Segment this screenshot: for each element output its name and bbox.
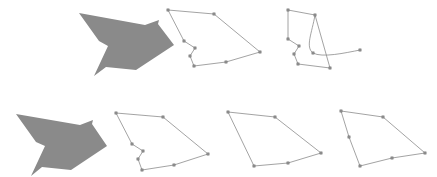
vertex-marker: [293, 53, 295, 55]
vertex-marker: [162, 116, 164, 118]
vertex-marker: [213, 13, 215, 15]
vertex-marker: [287, 9, 289, 11]
vertex-marker: [348, 136, 350, 138]
vertex-marker: [391, 157, 393, 159]
vertex-marker: [298, 45, 300, 47]
vertex-marker: [287, 38, 289, 40]
vertex-marker: [207, 153, 209, 155]
vertex-marker: [340, 110, 342, 112]
vertex-marker: [227, 111, 229, 113]
vertex-marker: [320, 152, 322, 154]
figure-root: [0, 0, 437, 177]
vertex-marker: [142, 150, 144, 152]
polygon-simplification-figure: [0, 0, 437, 177]
vertex-marker: [359, 49, 361, 51]
vertex-marker: [382, 116, 384, 118]
vertex-marker: [137, 158, 139, 160]
vertex-marker: [274, 116, 276, 118]
vertex-marker: [312, 52, 314, 54]
vertex-marker: [314, 14, 316, 16]
vertex-marker: [287, 162, 289, 164]
vertex-marker: [167, 9, 169, 11]
vertex-marker: [173, 164, 175, 166]
vertex-marker: [131, 143, 133, 145]
vertex-marker: [253, 165, 255, 167]
vertex-marker: [359, 165, 361, 167]
vertex-marker: [297, 63, 299, 65]
vertex-marker: [259, 51, 261, 53]
vertex-marker: [115, 112, 117, 114]
vertex-marker: [329, 67, 331, 69]
vertex-marker: [225, 61, 227, 63]
vertex-marker: [141, 169, 143, 171]
vertex-marker: [183, 40, 185, 42]
vertex-marker: [193, 65, 195, 67]
vertex-marker: [189, 55, 191, 57]
vertex-marker: [194, 47, 196, 49]
vertex-marker: [424, 152, 426, 154]
